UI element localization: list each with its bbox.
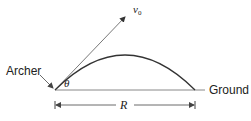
velocity-subscript: 0 bbox=[138, 9, 142, 17]
ground-label: Ground bbox=[209, 83, 249, 97]
archer-pointer-arrow bbox=[40, 75, 53, 88]
angle-label: θ bbox=[64, 77, 70, 89]
archer-label: Archer bbox=[6, 64, 41, 78]
range-label: R bbox=[119, 98, 128, 112]
velocity-label: v0 bbox=[133, 3, 142, 17]
trajectory-curve bbox=[55, 55, 195, 90]
projectile-diagram: Archer Ground θ R v0 bbox=[0, 0, 251, 121]
